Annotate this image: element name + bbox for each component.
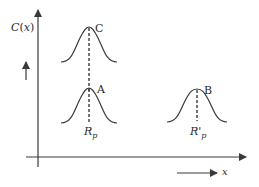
diagram: C(x) C A B Rp R'p x — [0, 0, 259, 187]
y-axis-label: C(x) — [11, 22, 34, 33]
peak-label-b: B — [204, 85, 212, 96]
x-axis-label: x — [222, 167, 228, 177]
peak-label-c: C — [95, 23, 103, 34]
position-label-rp: Rp — [84, 126, 97, 140]
peak-label-a: A — [97, 84, 105, 95]
position-label-rp-prime: R'p — [190, 126, 206, 140]
diagram-canvas — [0, 0, 259, 187]
